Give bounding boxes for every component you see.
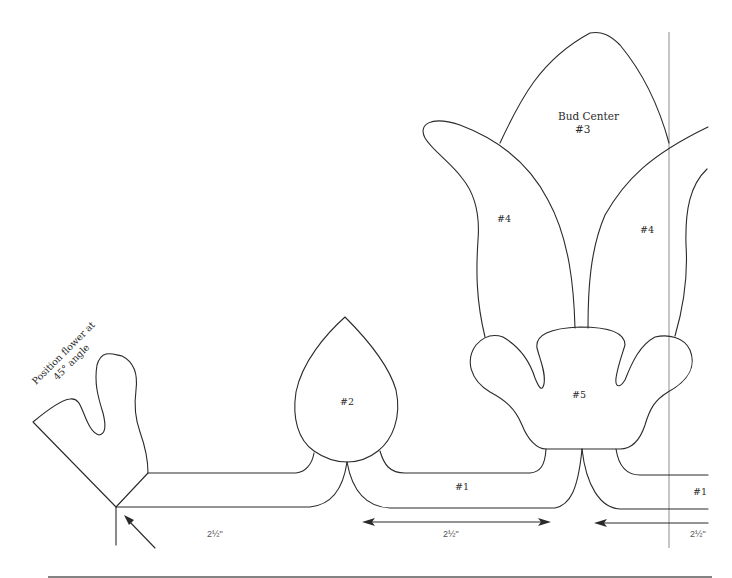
piece-5-calyx: #5 bbox=[470, 327, 692, 449]
piece-4-left-label: #4 bbox=[497, 213, 511, 224]
piece-4-right-label: #4 bbox=[640, 224, 654, 235]
piece-2-teardrop: #2 bbox=[295, 317, 398, 462]
piece-4-left-petal: #4 bbox=[423, 121, 575, 337]
corner-flower bbox=[33, 354, 148, 507]
piece-3-bud-center: Bud Center #3 bbox=[500, 33, 669, 144]
position-note: Position flower at 45° angle bbox=[30, 319, 106, 395]
dimension-right-label: 2½" bbox=[690, 529, 706, 539]
dimension-arrow-center bbox=[362, 518, 551, 526]
stem-band-left bbox=[116, 453, 347, 507]
dimension-arrow-right bbox=[594, 519, 708, 527]
stem-band-right: #1 bbox=[582, 449, 708, 509]
bud-center-number: #3 bbox=[575, 123, 590, 135]
piece-5-label: #5 bbox=[572, 389, 586, 400]
corner-arrow-icon bbox=[124, 515, 155, 548]
stem-band-center: #1 bbox=[347, 449, 582, 508]
piece-1-right-label: #1 bbox=[693, 486, 707, 497]
bud-center-label: Bud Center bbox=[558, 110, 620, 122]
piece-4-right-petal: #4 bbox=[588, 127, 708, 328]
pattern-canvas: #2 #1 #1 Bud Center #3 #4 #4 #5 bbox=[0, 0, 732, 578]
dimension-center-label: 2½" bbox=[443, 529, 459, 539]
piece-2-label: #2 bbox=[340, 396, 354, 407]
piece-4-far-right-partial bbox=[675, 169, 707, 336]
piece-1-center-label: #1 bbox=[455, 481, 469, 492]
dimension-left-label: 2½" bbox=[207, 529, 223, 539]
